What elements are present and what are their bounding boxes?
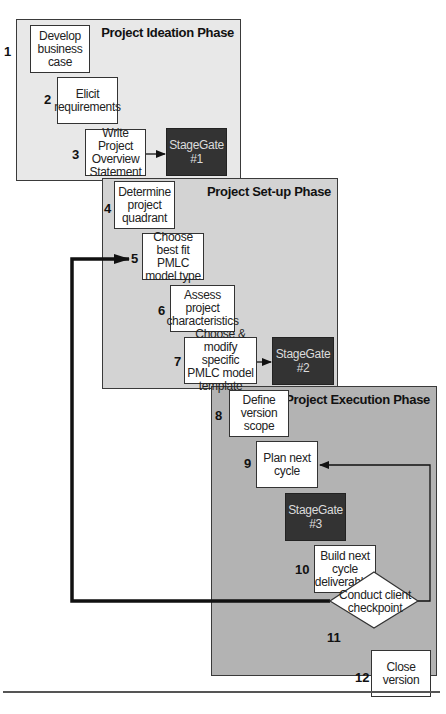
step-number: 3 (72, 147, 79, 162)
step-box-build-deliverables: Build next cycle deliverables (314, 545, 376, 593)
phase-title: Project Set-up Phase (207, 184, 331, 199)
step-box-write-pos: Write Project Overview Statement (85, 129, 146, 176)
step-number: 2 (44, 92, 51, 107)
step-number: 5 (131, 251, 138, 266)
gate-label: StageGate (288, 503, 343, 517)
step-number: 6 (158, 303, 165, 318)
step-label: Plan next cycle (261, 452, 313, 478)
step-number: 8 (215, 408, 222, 423)
step-label: Develop business case (35, 30, 85, 69)
step-box-develop-business-case: Develop business case (30, 25, 90, 73)
step-label: Choose & modify specific PMLC model temp… (186, 328, 255, 393)
step-label: Choose best fit PMLC model type (145, 231, 201, 283)
step-number: 9 (244, 456, 251, 471)
step-label: Build next cycle deliverables (315, 550, 375, 589)
stagegate-1: StageGate #1 (166, 128, 227, 176)
step-label: Determine project quadrant (117, 186, 172, 225)
gate-number: #3 (309, 517, 322, 531)
step-number: 7 (174, 354, 181, 369)
bottom-divider (3, 691, 440, 693)
step-box-choose-modify-template: Choose & modify specific PMLC model temp… (184, 337, 257, 384)
step-label: Elicit requirements (54, 88, 120, 114)
gate-number: #1 (190, 152, 203, 166)
step-label: Close version (376, 661, 426, 687)
step-label: Write Project Overview Statement (88, 127, 143, 179)
step-number: 10 (295, 562, 309, 577)
step-label: Define version scope (232, 394, 286, 433)
step-number: 1 (4, 44, 11, 59)
step-number: 12 (355, 670, 369, 685)
step-box-close-version: Close version (371, 650, 431, 697)
step-box-plan-next-cycle: Plan next cycle (256, 441, 318, 488)
stagegate-2: StageGate #2 (272, 337, 334, 385)
step-box-elicit-requirements: Elicit requirements (57, 77, 118, 124)
phase-title: Project Execution Phase (285, 392, 430, 407)
step-box-define-version-scope: Define version scope (229, 390, 289, 437)
step-number: 4 (104, 201, 111, 216)
gate-label: StageGate (169, 138, 224, 152)
step-number: 11 (327, 630, 341, 645)
step-box-assess-characteristics: Assess project characteristics (170, 285, 235, 332)
checkpoint-label: Conduct client checkpoint (334, 589, 416, 615)
step-box-choose-pmlc-type: Choose best fit PMLC model type (142, 233, 204, 280)
stagegate-3: StageGate #3 (285, 493, 346, 541)
step-box-determine-quadrant: Determine project quadrant (114, 181, 175, 229)
gate-number: #2 (297, 361, 310, 375)
gate-label: StageGate (276, 347, 331, 361)
phase-title: Project Ideation Phase (101, 25, 234, 40)
step-label: Assess project characteristics (166, 289, 238, 328)
